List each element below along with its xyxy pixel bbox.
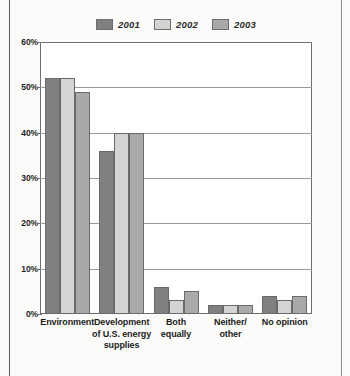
bar — [277, 300, 292, 314]
legend-item-2002: 2002 — [154, 19, 198, 30]
x-axis-label-line: Development — [94, 317, 149, 327]
bar — [262, 296, 277, 314]
bar — [75, 92, 90, 314]
x-axis-label-line: equally — [161, 329, 191, 339]
bar-group — [154, 42, 199, 314]
plot-area — [40, 42, 312, 314]
bar — [45, 78, 60, 314]
y-axis-tick-20pct: 20% — [8, 218, 38, 228]
bar-group — [262, 42, 307, 314]
page-right-rule — [341, 0, 342, 376]
x-axis-label-4: No opinion — [252, 317, 318, 329]
legend-label-2003: 2003 — [234, 19, 256, 30]
bar — [99, 151, 114, 314]
bar-group — [208, 42, 253, 314]
bar — [60, 78, 75, 314]
x-axis-label-line: Neither/ — [214, 317, 247, 327]
bar — [114, 133, 129, 314]
x-axis-label-line: supplies — [104, 340, 140, 350]
bar — [292, 296, 307, 314]
legend-item-2001: 2001 — [96, 19, 140, 30]
y-axis-tick-60pct: 60% — [8, 37, 38, 47]
x-axis-label-line: other — [219, 329, 241, 339]
legend-label-2001: 2001 — [118, 19, 140, 30]
bar-group — [45, 42, 90, 314]
bar — [129, 133, 144, 314]
y-axis-tick-labels: 0%10%20%30%40%50%60% — [4, 42, 38, 314]
y-axis-tick-mark — [38, 314, 42, 315]
x-axis-label-line: No opinion — [262, 317, 308, 327]
bar — [208, 305, 223, 314]
legend-swatch-2002 — [154, 19, 171, 30]
bar — [184, 291, 199, 314]
y-axis-tick-50pct: 50% — [8, 82, 38, 92]
x-axis-label-line: Environment — [40, 317, 94, 327]
chart-legend: 2001 2002 2003 — [36, 16, 316, 32]
bar-group — [99, 42, 144, 314]
y-axis-tick-40pct: 40% — [8, 128, 38, 138]
x-axis-label-line: Both — [166, 317, 186, 327]
legend-swatch-2003 — [212, 19, 229, 30]
bar — [223, 305, 238, 314]
chart-page: 2001 2002 2003 0%10%20%30%40%50%60% Envi… — [0, 0, 350, 376]
bar — [154, 287, 169, 314]
legend-swatch-2001 — [96, 19, 113, 30]
x-axis-category-labels: EnvironmentDevelopmentof U.S. energysupp… — [40, 317, 312, 373]
legend-item-2003: 2003 — [212, 19, 256, 30]
y-axis-tick-30pct: 30% — [8, 173, 38, 183]
legend-label-2002: 2002 — [176, 19, 198, 30]
bar — [238, 305, 253, 314]
bar — [169, 300, 184, 314]
y-axis-tick-10pct: 10% — [8, 264, 38, 274]
bars-layer — [40, 42, 312, 314]
